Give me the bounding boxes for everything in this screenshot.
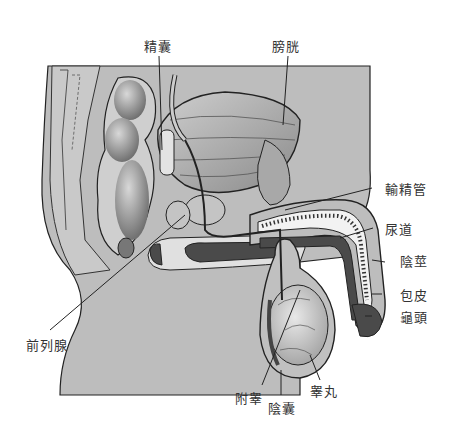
label-urethra: 尿道 [385,219,413,238]
label-bladder: 膀胱 [272,36,300,55]
label-glans: 龜頭 [400,307,428,326]
label-vas-deferens: 輸精管 [385,179,427,198]
label-penis: 陰莖 [400,251,428,270]
label-prostate: 前列腺 [26,335,68,354]
label-epididymis: 附睾 [235,388,263,407]
label-testis: 睾丸 [310,381,338,400]
label-seminal-vesicle: 精囊 [144,36,172,55]
label-scrotum: 陰囊 [268,398,296,417]
label-foreskin: 包皮 [400,285,428,304]
anatomy-diagram: 精囊 膀胱 輸精管 尿道 陰莖 包皮 龜頭 前列腺 附睾 陰囊 睾丸 [0,0,455,433]
anatomy-illustration [0,0,455,433]
